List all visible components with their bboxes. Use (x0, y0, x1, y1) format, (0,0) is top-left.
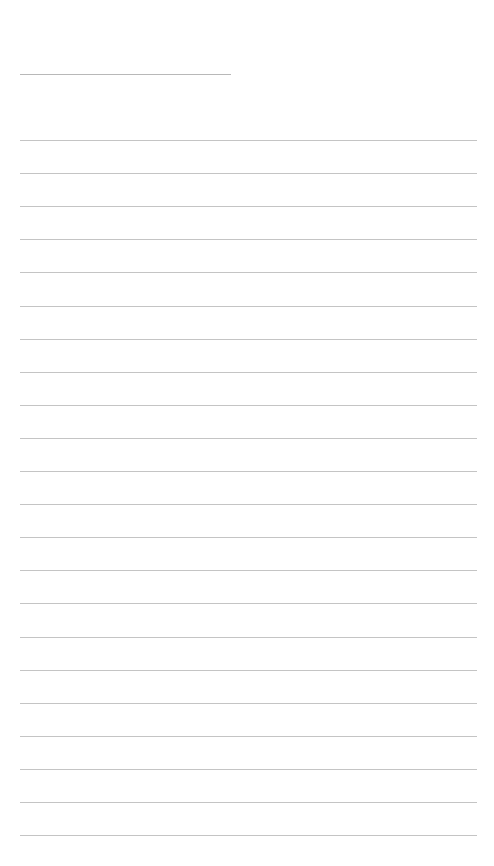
ruled-line (20, 537, 477, 538)
ruled-line (20, 835, 477, 836)
ruled-line (20, 769, 477, 770)
ruled-line (20, 405, 477, 406)
ruled-line (20, 206, 477, 207)
ruled-line (20, 703, 477, 704)
ruled-line (20, 239, 477, 240)
ruled-line (20, 603, 477, 604)
ruled-line (20, 570, 477, 571)
ruled-line (20, 670, 477, 671)
ruled-line (20, 438, 477, 439)
title-line (20, 74, 231, 75)
ruled-line (20, 504, 477, 505)
ruled-line (20, 372, 477, 373)
ruled-line (20, 173, 477, 174)
ruled-line (20, 802, 477, 803)
ruled-line (20, 272, 477, 273)
ruled-line (20, 140, 477, 141)
ruled-line (20, 306, 477, 307)
ruled-line (20, 637, 477, 638)
ruled-line (20, 471, 477, 472)
ruled-line (20, 736, 477, 737)
ruled-line (20, 339, 477, 340)
